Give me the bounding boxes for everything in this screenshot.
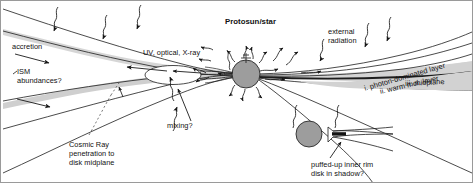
ism-abundances-label: ISM abundances? — [17, 67, 62, 85]
inset-rim-arrow — [330, 142, 341, 158]
cosmic-ray-label: Cosmic Ray penetration to disk midplane — [69, 140, 114, 168]
cosmic-ray-dashed-arrow — [119, 87, 123, 97]
external-radiation-label: external radiation — [328, 27, 357, 45]
accretion-arrow — [15, 54, 49, 63]
disk-flare-outlines — [3, 9, 236, 173]
inner-rim-label: puffed-up inner rim disk in shadow? — [311, 160, 373, 178]
uv-optical-xray-label: UV, optical, X-ray — [143, 48, 200, 57]
uv-optical-xray-arrows — [199, 47, 230, 70]
mixing-label: mixing? — [167, 121, 193, 130]
disk-structure-figure: Protosun/star accretion ISM abundances? … — [0, 0, 473, 183]
protosun-label: Protosun/star — [225, 17, 276, 26]
accretion-label: accretion — [12, 42, 42, 51]
inset-star — [296, 121, 322, 147]
protosun-star — [232, 60, 260, 88]
